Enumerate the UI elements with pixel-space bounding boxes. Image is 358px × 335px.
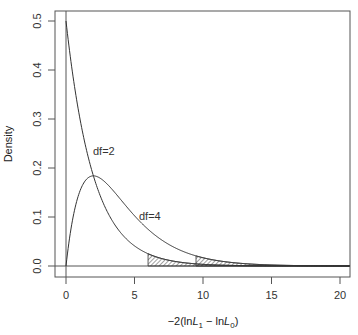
plot-box [55,11,350,277]
annotation-df4: df=4 [139,210,161,222]
y-tick-label: 0.0 [31,258,43,273]
y-axis-title: Density [2,125,14,162]
x-tick-label: 20 [334,289,346,301]
y-tick-label: 0.1 [31,209,43,224]
curve-df2 [66,21,350,266]
x-tick-label: 10 [197,289,209,301]
x-tick-label: 5 [131,289,137,301]
x-tick-label: 15 [265,289,277,301]
y-tick-label: 0.5 [31,13,43,28]
chart: 0 5 10 15 20 0.0 0.1 0.2 0.3 0.4 0.5 df=… [0,0,358,335]
x-tick-label: 0 [63,289,69,301]
x-axis: 0 5 10 15 20 [63,277,346,301]
y-axis: 0.0 0.1 0.2 0.3 0.4 0.5 [31,13,55,273]
y-tick-label: 0.4 [31,62,43,77]
x-axis-title: −2(lnL1 − lnL0) [168,315,239,330]
y-tick-label: 0.2 [31,160,43,175]
y-tick-label: 0.3 [31,111,43,126]
annotation-df2: df=2 [93,145,115,157]
curve-df4 [66,176,350,266]
